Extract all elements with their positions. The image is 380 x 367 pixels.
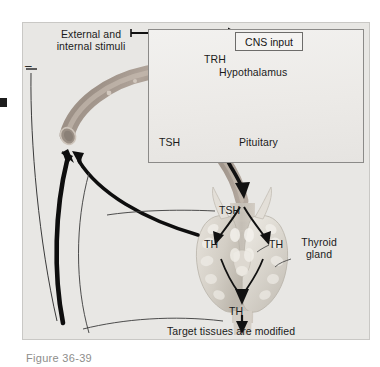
label-th-right: TH [269,239,283,251]
cns-input-label: CNS input [245,36,293,48]
figure-panel: CNS input External and internal stimuli … [0,0,380,367]
cns-input-box: CNS input [235,32,303,51]
label-trh: TRH [204,54,226,66]
label-pituitary: Pituitary [239,137,278,149]
label-external-stimuli-line2: internal stimuli [45,41,137,53]
label-th-bottom: TH [229,306,243,318]
figure-caption: Figure 36-39 [26,352,92,365]
label-tsh-blood: TSH [219,205,240,217]
label-external-stimuli-line1: External and [45,29,137,41]
label-hypothalamus: Hypothalamus [219,67,287,79]
label-th-left: TH [204,239,218,251]
label-tsh-pituitary: TSH [159,137,180,149]
page-edge-mark [0,98,7,107]
label-negative-feedback-sign: – [25,61,32,73]
label-thyroid-line2: gland [291,249,347,261]
label-target-tissues: Target tissues are modified [167,326,295,338]
diagram-frame: CNS input External and internal stimuli … [22,22,370,340]
label-thyroid-line1: Thyroid [291,237,347,249]
